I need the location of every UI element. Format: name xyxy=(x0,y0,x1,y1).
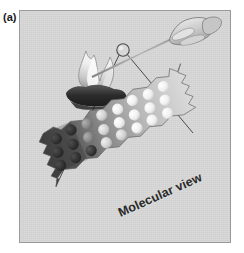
hand-cuff xyxy=(202,17,221,34)
figure-panel-a: (a) xyxy=(0,0,244,253)
illustration-stage: Molecular view xyxy=(20,11,230,242)
sample-bead xyxy=(117,44,129,56)
panel-label: (a) xyxy=(3,11,16,23)
hand-holding-wire xyxy=(170,17,222,45)
molecular-view-strip xyxy=(31,64,206,187)
illustration-panel: Molecular view xyxy=(19,10,231,243)
